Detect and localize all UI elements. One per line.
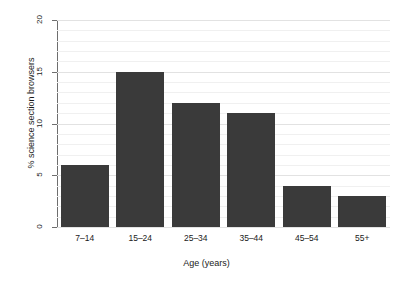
bar <box>283 186 331 227</box>
x-axis-title: Age (years) <box>0 258 413 268</box>
bar <box>116 72 164 227</box>
x-axis-tick-label: 55+ <box>335 233 391 243</box>
gridline-minor <box>57 92 390 93</box>
y-axis-tick <box>52 175 57 176</box>
y-axis-tick <box>52 20 57 21</box>
gridline-minor <box>57 113 390 114</box>
gridline-minor <box>57 41 390 42</box>
bar <box>172 103 220 227</box>
y-axis-title: % science section browsers <box>26 33 36 193</box>
y-axis-tick-label: 0 <box>35 217 44 237</box>
y-axis-tick-label: 20 <box>35 10 44 30</box>
gridline-major <box>57 72 390 73</box>
gridline-major <box>57 124 390 125</box>
x-axis-tick-label: 25–34 <box>168 233 224 243</box>
gridline-major <box>57 227 390 228</box>
gridline-minor <box>57 103 390 104</box>
bar <box>227 113 275 227</box>
gridline-minor <box>57 61 390 62</box>
y-axis-tick <box>52 72 57 73</box>
gridline-minor <box>57 51 390 52</box>
bar <box>338 196 386 227</box>
bar-chart-figure: 05101520 7–1415–2425–3435–4445–5455+ % s… <box>0 0 413 283</box>
gridline-minor <box>57 82 390 83</box>
x-axis-tick-label: 35–44 <box>224 233 280 243</box>
x-axis-tick-label: 15–24 <box>113 233 169 243</box>
gridline-minor <box>57 155 390 156</box>
gridline-minor <box>57 144 390 145</box>
y-axis-tick <box>52 227 57 228</box>
x-axis-tick-label: 7–14 <box>57 233 113 243</box>
bar <box>61 165 109 227</box>
x-axis-tick-label: 45–54 <box>279 233 335 243</box>
y-axis-tick <box>52 124 57 125</box>
gridline-minor <box>57 134 390 135</box>
gridline-major <box>57 20 390 21</box>
gridline-minor <box>57 30 390 31</box>
